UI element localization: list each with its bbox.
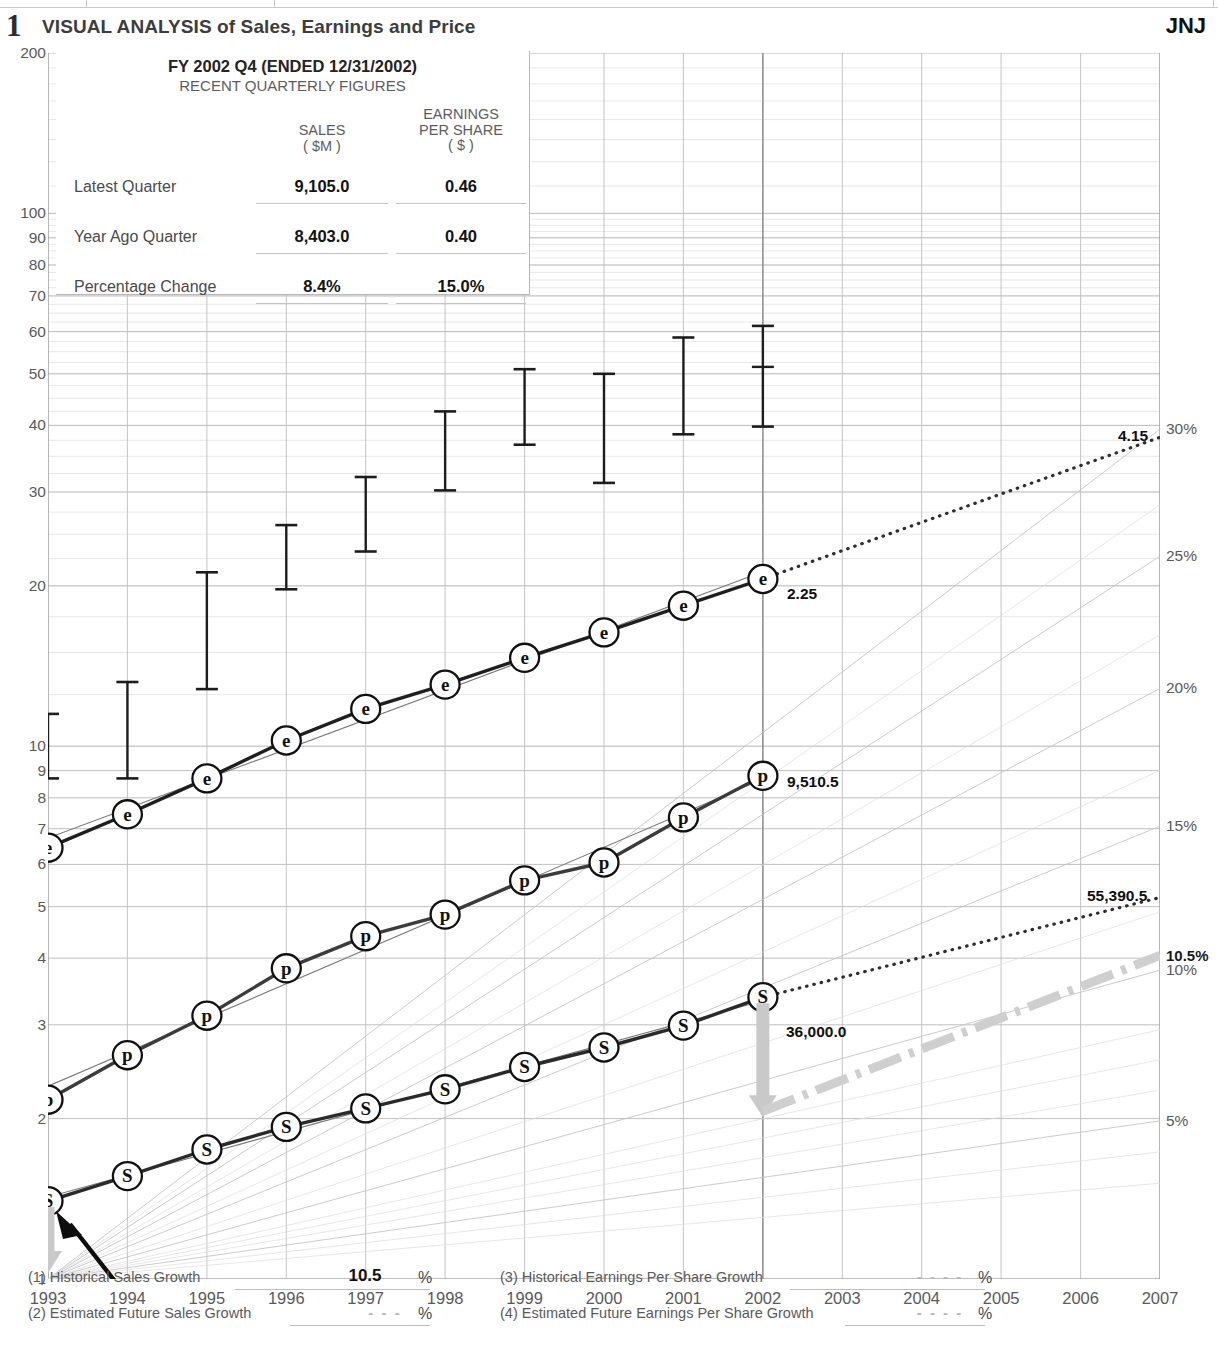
y-axis-tick-200: 200: [4, 45, 46, 61]
svg-text:S: S: [678, 1015, 689, 1036]
svg-text:S: S: [360, 1098, 371, 1119]
y-axis-tick-2: 2: [4, 1111, 46, 1127]
svg-text:e: e: [361, 698, 369, 719]
footer-label-estimated-future-eps-growth: (4) Estimated Future Earnings Per Share …: [500, 1305, 814, 1321]
y-axis-tick-50: 50: [4, 366, 46, 382]
y-axis-tick-60: 60: [4, 324, 46, 340]
svg-text:e: e: [282, 730, 290, 751]
growth-rate-tick-30pct: 30%: [1166, 421, 1197, 437]
growth-rate-axis-labels: 5%10%10.5%15%20%25%30%: [1166, 46, 1218, 1286]
footer-value-historical-eps-growth[interactable]: - - - -: [900, 1268, 980, 1285]
eps-2007-projection-label: 4.15: [1118, 427, 1148, 445]
cell-sales-percentage-change: 8.4%: [262, 277, 382, 296]
section-number: 1: [6, 8, 22, 44]
svg-text:S: S: [440, 1079, 451, 1100]
svg-text:p: p: [122, 1044, 133, 1065]
growth-rate-tick-10-5pct: 10.5%: [1166, 948, 1209, 963]
quarterly-box-subtitle: RECENT QUARTERLY FIGURES: [56, 77, 529, 94]
svg-text:p: p: [599, 852, 610, 873]
growth-rate-footer: (1) Historical Sales Growth 10.5 % (2) E…: [0, 1267, 1218, 1352]
eps-2002-label: 2.25: [787, 585, 817, 603]
y-axis-tick-6: 6: [4, 856, 46, 872]
pretax-profit-2002-label: 9,510.5: [787, 773, 839, 791]
svg-text:p: p: [360, 925, 371, 946]
svg-text:p: p: [440, 904, 451, 925]
column-header-sales: SALES ( $M ): [262, 123, 382, 154]
previous-row-sliver: [0, 0, 1218, 9]
growth-rate-tick-10pct: 10%: [1166, 962, 1197, 978]
y-axis-tick-70: 70: [4, 288, 46, 304]
footer-label-historical-sales-growth: (1) Historical Sales Growth: [28, 1269, 200, 1285]
y-axis-tick-10: 10: [4, 738, 46, 754]
svg-text:p: p: [519, 870, 530, 891]
footer-percent-sign-3: %: [978, 1269, 992, 1287]
footer-percent-sign-1: %: [418, 1269, 432, 1287]
y-axis-tick-20: 20: [4, 578, 46, 594]
footer-value-estimated-future-sales-growth[interactable]: - - -: [350, 1304, 420, 1321]
cell-sales-latest-quarter: 9,105.0: [262, 177, 382, 196]
footer-label-estimated-future-sales-growth: (2) Estimated Future Sales Growth: [28, 1305, 251, 1321]
growth-rate-tick-20pct: 20%: [1166, 680, 1197, 696]
y-axis-tick-3: 3: [4, 1017, 46, 1033]
y-axis-tick-4: 4: [4, 950, 46, 966]
y-axis-tick-40: 40: [4, 417, 46, 433]
cell-sales-year-ago-quarter: 8,403.0: [262, 227, 382, 246]
sales-2002-label: 36,000.0: [786, 1023, 846, 1041]
page-title: VISUAL ANALYSIS of Sales, Earnings and P…: [42, 16, 475, 38]
footer-label-historical-eps-growth: (3) Historical Earnings Per Share Growth: [500, 1269, 763, 1285]
quarterly-box-title: FY 2002 Q4 (ENDED 12/31/2002): [56, 57, 529, 76]
growth-rate-tick-15pct: 15%: [1166, 818, 1197, 834]
y-axis-tick-30: 30: [4, 484, 46, 500]
sales-2007-projection-label: 55,390.5: [1087, 887, 1147, 905]
cell-eps-percentage-change: 15.0%: [401, 277, 521, 296]
page-title-bar: 1 VISUAL ANALYSIS of Sales, Earnings and…: [0, 9, 1218, 44]
svg-text:S: S: [202, 1139, 213, 1160]
recent-quarterly-figures-box: FY 2002 Q4 (ENDED 12/31/2002) RECENT QUA…: [56, 51, 530, 295]
svg-text:e: e: [441, 674, 449, 695]
y-axis-tick-8: 8: [4, 790, 46, 806]
footer-value-estimated-future-eps-growth[interactable]: - - - -: [900, 1304, 980, 1321]
row-label-percentage-change: Percentage Change: [74, 278, 216, 296]
y-axis-labels: 123456789102030405060708090100200: [0, 46, 46, 1286]
svg-text:e: e: [759, 568, 767, 589]
y-axis-tick-80: 80: [4, 257, 46, 273]
svg-text:e: e: [48, 837, 52, 858]
svg-text:S: S: [519, 1056, 530, 1077]
y-axis-tick-5: 5: [4, 899, 46, 915]
svg-text:p: p: [758, 765, 769, 786]
y-axis-tick-90: 90: [4, 230, 46, 246]
svg-text:e: e: [123, 804, 131, 825]
growth-rate-tick-25pct: 25%: [1166, 548, 1197, 564]
svg-text:S: S: [281, 1116, 292, 1137]
footer-value-historical-sales-growth[interactable]: 10.5: [330, 1266, 400, 1286]
svg-text:p: p: [281, 958, 292, 979]
row-label-latest-quarter: Latest Quarter: [74, 178, 176, 196]
y-axis-tick-7: 7: [4, 821, 46, 837]
footer-percent-sign-4: %: [978, 1305, 992, 1323]
visual-analysis-chart: 123456789102030405060708090100200 5%10%1…: [0, 46, 1218, 1242]
svg-text:e: e: [600, 622, 608, 643]
y-axis-tick-100: 100: [4, 205, 46, 221]
column-header-eps: EARNINGS PER SHARE ( $ ): [396, 107, 526, 154]
svg-text:p: p: [202, 1005, 213, 1026]
svg-text:e: e: [203, 768, 211, 789]
svg-text:p: p: [48, 1089, 53, 1110]
ticker-symbol: JNJ: [1166, 13, 1206, 39]
svg-text:S: S: [599, 1037, 610, 1058]
cell-eps-latest-quarter: 0.46: [401, 177, 521, 196]
row-label-year-ago-quarter: Year Ago Quarter: [74, 228, 197, 246]
y-axis-tick-9: 9: [4, 763, 46, 779]
cell-eps-year-ago-quarter: 0.40: [401, 227, 521, 246]
svg-text:p: p: [678, 807, 689, 828]
svg-text:e: e: [679, 595, 687, 616]
footer-percent-sign-2: %: [418, 1305, 432, 1323]
svg-text:e: e: [520, 647, 528, 668]
growth-rate-tick-5pct: 5%: [1166, 1113, 1188, 1129]
svg-text:S: S: [122, 1165, 133, 1186]
